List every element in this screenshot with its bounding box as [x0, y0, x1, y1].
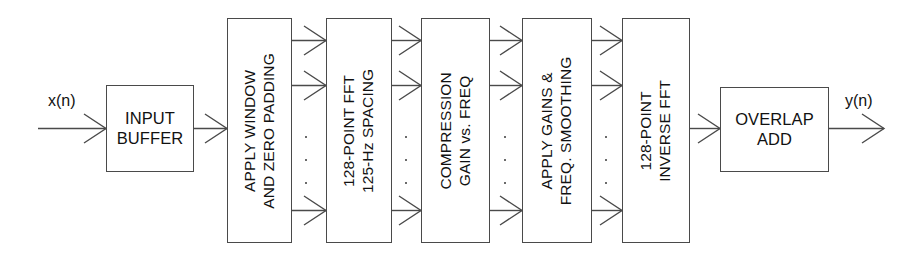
- block-fft-128-point-line-1: 128-POINT FFT: [340, 68, 359, 192]
- bus-ellipsis-compression-to-apply-gains: [502, 136, 508, 184]
- ellipsis-dot: [504, 182, 506, 184]
- block-diagram: x(n) y(n) INPUT BUFFER APPLY WINDOW AND …: [0, 0, 913, 259]
- ellipsis-dot: [405, 159, 407, 161]
- arrow-inverse-fft-to-overlap-add: [690, 114, 720, 143]
- block-inverse-fft-128-point-line-2: INVERSE FFT: [656, 80, 675, 182]
- arrow-input-to-input-buffer: [38, 114, 106, 143]
- block-input-buffer-label: INPUT BUFFER: [117, 109, 184, 148]
- block-overlap-add-line-2: ADD: [735, 130, 814, 149]
- arrow-input-buffer-to-apply-window: [194, 114, 227, 143]
- block-input-buffer-line-2: BUFFER: [117, 129, 184, 148]
- input-signal-label: x(n): [48, 92, 76, 110]
- bus-ellipsis-apply-window-to-fft: [303, 136, 309, 184]
- block-input-buffer[interactable]: INPUT BUFFER: [106, 85, 194, 172]
- block-compression-gain-vs-freq-line-2: GAIN vs. FREQ: [456, 72, 475, 189]
- arrow-bus-apply-gains-to-inverse-fft: [592, 26, 622, 225]
- block-overlap-add-line-1: OVERLAP: [735, 110, 814, 129]
- ellipsis-dot: [605, 182, 607, 184]
- block-overlap-add-label: OVERLAP ADD: [735, 110, 814, 149]
- block-overlap-add[interactable]: OVERLAP ADD: [720, 87, 829, 172]
- ellipsis-dot: [305, 182, 307, 184]
- arrow-bus-compression-to-apply-gains: [490, 26, 522, 225]
- block-apply-gains-freq-smoothing-label: APPLY GAINS & FREQ. SMOOTHING: [538, 56, 576, 205]
- bus-ellipsis-apply-gains-to-inverse-fft: [603, 136, 609, 184]
- ellipsis-dot: [405, 182, 407, 184]
- block-compression-gain-vs-freq-line-1: COMPRESSION: [437, 72, 456, 189]
- ellipsis-dot: [504, 159, 506, 161]
- block-apply-gains-freq-smoothing-line-2: FREQ. SMOOTHING: [557, 56, 576, 205]
- ellipsis-dot: [504, 136, 506, 138]
- ellipsis-dot: [605, 136, 607, 138]
- block-inverse-fft-128-point[interactable]: 128-POINT INVERSE FFT: [622, 18, 690, 243]
- block-apply-window-zero-padding[interactable]: APPLY WINDOW AND ZERO PADDING: [227, 18, 292, 243]
- output-signal-label: y(n): [845, 92, 873, 110]
- block-apply-window-zero-padding-line-2: AND ZERO PADDING: [260, 53, 279, 208]
- block-apply-window-zero-padding-line-1: APPLY WINDOW: [241, 53, 260, 208]
- block-inverse-fft-128-point-label: 128-POINT INVERSE FFT: [637, 80, 675, 182]
- block-inverse-fft-128-point-line-1: 128-POINT: [637, 80, 656, 182]
- block-apply-window-zero-padding-label: APPLY WINDOW AND ZERO PADDING: [241, 53, 279, 208]
- ellipsis-dot: [305, 159, 307, 161]
- block-input-buffer-line-1: INPUT: [117, 109, 184, 128]
- block-apply-gains-freq-smoothing[interactable]: APPLY GAINS & FREQ. SMOOTHING: [522, 18, 592, 243]
- ellipsis-dot: [605, 159, 607, 161]
- arrow-overlap-add-to-output: [829, 114, 884, 143]
- arrow-bus-fft-to-compression: [392, 26, 421, 225]
- block-fft-128-point-label: 128-POINT FFT 125-Hz SPACING: [340, 68, 378, 192]
- block-fft-128-point-line-2: 125-Hz SPACING: [359, 68, 378, 192]
- block-compression-gain-vs-freq[interactable]: COMPRESSION GAIN vs. FREQ: [421, 18, 490, 243]
- ellipsis-dot: [305, 136, 307, 138]
- block-apply-gains-freq-smoothing-line-1: APPLY GAINS &: [538, 56, 557, 205]
- block-fft-128-point[interactable]: 128-POINT FFT 125-Hz SPACING: [326, 18, 392, 243]
- ellipsis-dot: [405, 136, 407, 138]
- bus-ellipsis-fft-to-compression: [403, 136, 409, 184]
- arrow-bus-apply-window-to-fft: [292, 26, 326, 225]
- block-compression-gain-vs-freq-label: COMPRESSION GAIN vs. FREQ: [437, 72, 475, 189]
